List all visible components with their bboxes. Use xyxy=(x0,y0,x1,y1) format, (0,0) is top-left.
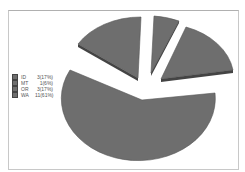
pie-slice-id xyxy=(78,17,141,81)
legend-swatch xyxy=(12,92,18,98)
legend-item-wa: WA 11(61%) xyxy=(12,92,53,98)
pie-slice-wa xyxy=(61,70,215,163)
chart-legend: ID 3(17%) MT 1(6%) OR 3(17%) WA 11(61%) xyxy=(12,74,53,98)
legend-label: WA xyxy=(21,92,35,98)
legend-value: 11(61%) xyxy=(35,92,53,98)
